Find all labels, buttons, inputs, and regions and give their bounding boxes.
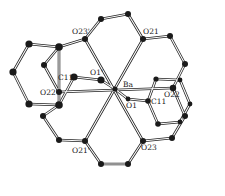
- atom-r6: [155, 121, 161, 127]
- atom-c11: [145, 98, 151, 104]
- label-o1: O1: [126, 101, 137, 110]
- bond: [128, 14, 143, 39]
- label-o23-prime: O23': [72, 27, 90, 36]
- label-c11-prime: C11': [58, 73, 75, 82]
- label-o22: O22: [164, 90, 180, 99]
- bond: [101, 14, 128, 19]
- label-o23: O23: [141, 143, 157, 152]
- atom-r2: [178, 78, 183, 83]
- label-c11: C11: [151, 97, 166, 106]
- label-o21: O21: [143, 27, 159, 36]
- label-ba: Ba: [123, 80, 134, 89]
- atom-t1: [98, 16, 104, 22]
- label-o21-prime: O21': [72, 146, 90, 155]
- atom-r1: [167, 33, 173, 39]
- atom-b1: [98, 161, 104, 167]
- atom-r5: [169, 135, 175, 141]
- bond: [13, 72, 29, 104]
- bond: [180, 80, 190, 104]
- atom-r4: [182, 113, 188, 119]
- atom-r3: [188, 102, 193, 107]
- bond: [43, 116, 59, 140]
- label-o1-prime: O1': [90, 68, 103, 77]
- atom-o1p: [97, 76, 104, 83]
- crystal-structure-diagram: Ba O21 O23' O1' C11' O22' O22 O1 C11 O21…: [0, 0, 225, 196]
- bond: [172, 116, 185, 138]
- atom-l5: [55, 101, 63, 109]
- atom-l3: [9, 68, 16, 75]
- atom-r1: [153, 76, 158, 81]
- atom-r2: [182, 61, 188, 67]
- atom-ba: [112, 86, 117, 91]
- atom-l2: [25, 40, 32, 47]
- atom-o21: [140, 36, 146, 42]
- atom-r7: [178, 120, 183, 125]
- atom-l1: [56, 137, 62, 143]
- atom-l4: [25, 100, 32, 107]
- atom-l1: [55, 43, 63, 51]
- bond: [13, 44, 29, 72]
- atom-o23p: [82, 36, 88, 42]
- atom-b2: [125, 161, 131, 167]
- atom-t2: [125, 11, 131, 17]
- bond: [59, 39, 85, 47]
- label-o22-prime: O22': [40, 88, 58, 97]
- bond: [170, 36, 185, 64]
- atom-l2: [40, 113, 46, 119]
- atom-l6: [41, 62, 47, 68]
- atom-o21p: [82, 138, 88, 144]
